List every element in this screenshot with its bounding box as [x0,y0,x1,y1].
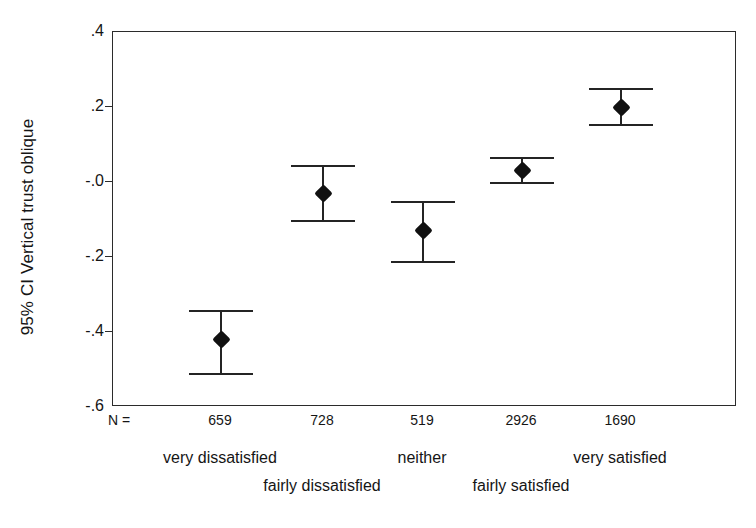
n-value: 728 [277,412,367,428]
mean-marker [314,184,332,202]
y-tick-label: -.2 [58,248,104,264]
y-tick-label-wrap: -.2 [56,248,104,264]
y-tick-label-wrap: .4 [56,23,104,39]
n-value: 659 [175,412,265,428]
category-label: neither [317,449,527,467]
y-tick-mark [105,181,112,182]
y-tick-label-wrap: -.4 [56,323,104,339]
error-bar-lower-cap [589,124,653,126]
error-bar-lower-cap [490,182,554,184]
y-tick-mark [105,331,112,332]
n-value: 2926 [476,412,566,428]
y-tick-mark [105,256,112,257]
y-tick-label: -.0 [58,173,104,189]
error-bar-chart: 95% CI Vertical trust oblique .4.2-.0-.2… [0,0,756,528]
category-label: very dissatisfied [115,449,325,467]
y-tick-label-wrap: -.6 [56,398,104,414]
y-tick-label: .2 [58,98,104,114]
n-value: 519 [377,412,467,428]
category-label: fairly dissatisfied [217,477,427,495]
y-tick-label: .4 [58,23,104,39]
mean-marker [513,162,531,180]
category-label: very satisfied [515,449,725,467]
y-tick-label-wrap: .2 [56,98,104,114]
mean-marker [414,222,432,240]
y-axis-title: 95% CI Vertical trust oblique [15,37,41,417]
n-value: 1690 [575,412,665,428]
y-tick-label: -.4 [58,323,104,339]
n-equals-label: N = [108,412,130,428]
y-tick-mark [105,106,112,107]
y-tick-label: -.6 [58,398,104,414]
error-bar-lower-cap [391,261,455,263]
category-label: fairly satisfied [416,477,626,495]
mean-marker [612,98,630,116]
error-bar-lower-cap [189,373,253,375]
y-tick-label-wrap: -.0 [56,173,104,189]
plot-area [112,31,736,406]
error-bar-lower-cap [291,220,355,222]
mean-marker [212,330,230,348]
